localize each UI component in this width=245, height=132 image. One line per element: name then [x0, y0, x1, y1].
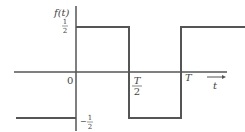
svg-text:1: 1: [63, 18, 67, 26]
label-neg-half: − 1 2: [80, 114, 93, 131]
origin-label: 0: [67, 75, 73, 86]
axis-variable-t: t: [207, 75, 226, 91]
svg-text:t: t: [213, 80, 218, 91]
label-half: 1 2: [62, 18, 68, 35]
svg-text:T: T: [134, 75, 142, 86]
label-half-period: T 2: [132, 75, 142, 97]
function-label: f(t): [53, 7, 70, 18]
svg-text:1: 1: [88, 114, 92, 122]
square-wave-diagram: f(t) 1 2 0 − 1 2 T 2 T t: [0, 0, 245, 132]
svg-text:−: −: [80, 117, 87, 126]
label-period: T: [185, 72, 193, 83]
svg-text:2: 2: [63, 27, 67, 35]
svg-text:2: 2: [88, 123, 92, 131]
svg-text:2: 2: [134, 86, 140, 97]
